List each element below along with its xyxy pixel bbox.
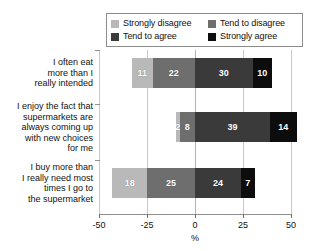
bar-value-label: 24 xyxy=(213,179,223,188)
legend-item-strongly-disagree[interactable]: Strongly disagree xyxy=(111,19,208,28)
x-axis-tick xyxy=(147,214,148,218)
plot-area: % -50-2502550112230102839141825247 xyxy=(99,50,291,214)
legend-swatch-icon xyxy=(208,33,216,41)
bar-value-label: 11 xyxy=(137,69,147,78)
x-axis-tick xyxy=(195,214,196,218)
bar-value-label: 7 xyxy=(245,179,250,188)
category-label-3: I buy more than I really need most times… xyxy=(0,162,93,204)
bar-value-label: 22 xyxy=(169,69,179,78)
x-axis-tick-label: 0 xyxy=(192,220,197,230)
bar-segment[interactable]: 10 xyxy=(253,58,272,88)
bar-segment[interactable]: 25 xyxy=(147,168,195,198)
legend-swatch-icon xyxy=(111,33,119,41)
bar-value-label: 30 xyxy=(219,69,229,78)
x-axis-tick-label: 50 xyxy=(286,220,296,230)
bar-segment[interactable]: 18 xyxy=(112,168,147,198)
bar-row: 283914 xyxy=(176,112,297,142)
y-axis-tick xyxy=(95,160,100,161)
y-axis-tick xyxy=(95,104,100,105)
bar-row: 11223010 xyxy=(132,58,272,88)
bar-segment[interactable]: 30 xyxy=(195,58,253,88)
bar-segment[interactable]: 11 xyxy=(132,58,153,88)
bar-value-label: 10 xyxy=(257,69,267,78)
chart-container: Strongly disagreeTend to disagreeTend to… xyxy=(0,0,320,251)
bar-segment[interactable]: 7 xyxy=(241,168,254,198)
x-axis-tick xyxy=(243,214,244,218)
x-axis-tick-label: 25 xyxy=(238,220,248,230)
legend-swatch-icon xyxy=(208,20,216,28)
legend-item-tend-to-disagree[interactable]: Tend to disagree xyxy=(208,19,304,28)
legend-label: Strongly agree xyxy=(220,32,277,41)
category-label-1: I often eat more than I really intended xyxy=(0,57,93,89)
bar-value-label: 25 xyxy=(166,179,176,188)
legend-label: Tend to agree xyxy=(123,32,177,41)
bar-value-label: 18 xyxy=(125,179,135,188)
category-label-2: I enjoy the fact that supermarkets are a… xyxy=(0,101,93,154)
bar-row: 1825247 xyxy=(112,168,254,198)
bar-segment[interactable]: 24 xyxy=(195,168,241,198)
legend-label: Strongly disagree xyxy=(123,19,191,28)
legend-item-strongly-agree[interactable]: Strongly agree xyxy=(208,32,304,41)
x-axis-tick xyxy=(291,214,292,218)
legend-item-tend-to-agree[interactable]: Tend to agree xyxy=(111,32,208,41)
bar-segment[interactable]: 14 xyxy=(270,112,297,142)
gridline xyxy=(99,50,100,214)
x-axis-title: % xyxy=(191,233,199,243)
bar-value-label: 39 xyxy=(227,123,237,132)
bar-segment[interactable]: 22 xyxy=(153,58,195,88)
chart-legend: Strongly disagreeTend to disagreeTend to… xyxy=(106,13,303,47)
bar-value-label: 14 xyxy=(278,123,288,132)
legend-label: Tend to disagree xyxy=(220,19,285,28)
bar-value-label: 8 xyxy=(185,123,190,132)
legend-swatch-icon xyxy=(111,20,119,28)
x-axis-tick xyxy=(99,214,100,218)
y-axis-tick xyxy=(95,50,100,51)
x-axis-tick-label: -25 xyxy=(140,220,153,230)
bar-segment[interactable]: 8 xyxy=(180,112,195,142)
x-axis-tick-label: -50 xyxy=(92,220,105,230)
bar-segment[interactable]: 39 xyxy=(195,112,270,142)
